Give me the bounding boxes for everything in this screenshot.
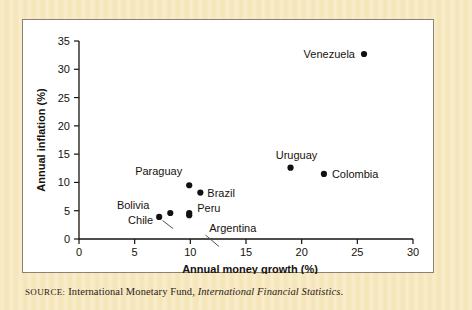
x-axis-tick-label: 15 <box>240 246 252 258</box>
source-organization: International Monetary Fund, <box>68 286 195 297</box>
x-axis-tick-label: 5 <box>132 246 138 258</box>
data-point-chile[interactable] <box>156 214 162 220</box>
data-point-colombia[interactable] <box>321 171 327 177</box>
data-point-bolivia[interactable] <box>167 210 173 216</box>
data-point-label-bolivia: Bolivia <box>117 199 150 211</box>
source-label: SOURCE: <box>25 287 65 297</box>
x-axis-tick-label: 0 <box>76 246 82 258</box>
y-axis-tick-label: 20 <box>58 120 70 132</box>
data-point-label-paraguay: Paraguay <box>135 165 183 177</box>
figure-frame: 05101520253035051015202530Annual money g… <box>22 19 434 273</box>
data-point-brazil[interactable] <box>197 190 203 196</box>
y-axis-tick-label: 25 <box>58 92 70 104</box>
leader-line-argentina <box>206 235 220 247</box>
y-axis-tick-label: 10 <box>58 176 70 188</box>
scatter-plot: 05101520253035051015202530Annual money g… <box>23 20 435 274</box>
y-axis-tick-label: 5 <box>64 205 70 217</box>
data-point-label-peru: Peru <box>197 202 220 214</box>
leader-line-bolivia <box>163 221 174 229</box>
data-point-label-brazil: Brazil <box>207 187 235 199</box>
x-axis-tick-label: 10 <box>184 246 196 258</box>
data-point-uruguay[interactable] <box>287 165 293 171</box>
source-terminator: . <box>340 286 343 297</box>
y-axis-title: Annual inflation (%) <box>35 88 47 192</box>
data-point-paraguay[interactable] <box>186 182 192 188</box>
x-axis-title: Annual money growth (%) <box>182 263 318 274</box>
data-point-venezuela[interactable] <box>361 51 367 57</box>
x-axis-tick-label: 25 <box>351 246 363 258</box>
source-publication: International Financial Statistics <box>198 286 341 297</box>
x-axis-tick-label: 30 <box>407 246 419 258</box>
y-axis-tick-label: 35 <box>58 35 70 47</box>
data-point-argentina[interactable] <box>186 212 192 218</box>
y-axis-tick-label: 15 <box>58 148 70 160</box>
data-point-label-uruguay: Uruguay <box>276 149 318 161</box>
y-axis-tick-label: 30 <box>58 63 70 75</box>
source-note: SOURCE: International Monetary Fund, Int… <box>25 286 343 297</box>
y-axis-tick-label: 0 <box>64 233 70 245</box>
x-axis-tick-label: 20 <box>296 246 308 258</box>
data-point-label-colombia: Colombia <box>332 168 379 180</box>
data-point-label-argentina: Argentina <box>209 222 257 234</box>
data-point-label-venezuela: Venezuela <box>304 48 356 60</box>
data-point-label-chile: Chile <box>128 214 153 226</box>
